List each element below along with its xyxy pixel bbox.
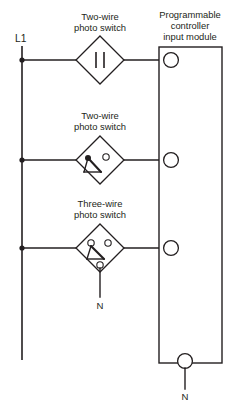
branch-3-neutral-label: N [97,300,104,311]
branch-2-open-terminal [103,154,109,160]
branch-3-terminal-right [105,240,111,246]
wiring-diagram: L1 Two-wire photo switch Two-wire photo … [0,0,237,405]
branch-1-junction-dot [19,57,24,62]
branch-2-label-line2: photo switch [74,121,126,132]
module-title-line3: input module [163,31,217,42]
input-terminal-2[interactable] [164,153,179,168]
power-rail-label: L1 [15,33,27,44]
branch-1-label-line1: Two-wire [81,11,119,22]
module-neutral-terminal[interactable] [178,354,193,369]
module-title-line1: Programmable [159,9,220,20]
module-neutral-label: N [182,391,189,402]
branch-3-label-line1: Three-wire [78,198,123,209]
branch-1-label-line2: photo switch [74,22,126,33]
input-terminal-1[interactable] [164,53,179,68]
branch-3-label-line2: photo switch [74,209,126,220]
branch-2-label-line1: Two-wire [81,110,119,121]
branch-3-junction-dot [19,245,24,250]
diagram-canvas: L1 Two-wire photo switch Two-wire photo … [0,0,237,405]
branch-1-switch-body [76,36,124,84]
module-title-line2: controller [171,20,210,31]
branch-2-switch-body [76,136,124,184]
branch-2-junction-dot [19,157,24,162]
input-module-box [159,47,222,363]
branch-3-terminal-bottom [97,262,103,268]
input-terminal-3[interactable] [164,241,179,256]
